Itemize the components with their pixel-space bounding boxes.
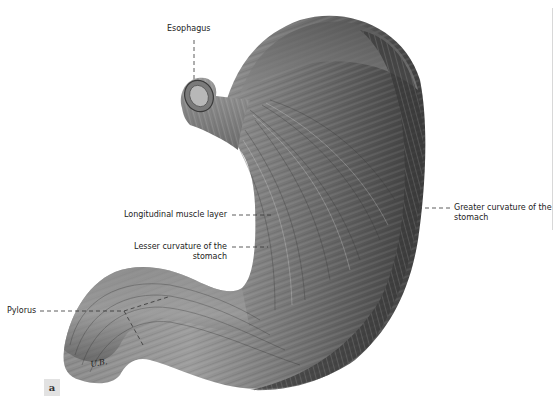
panel-label: a bbox=[44, 379, 60, 396]
page-edge-rule bbox=[552, 8, 553, 230]
label-lesser-curvature: Lesser curvature of the stomach bbox=[134, 242, 227, 262]
label-esophagus: Esophagus bbox=[167, 24, 210, 34]
label-greater-curvature: Greater curvature of the stomach bbox=[454, 203, 552, 223]
label-longitudinal-muscle-layer: Longitudinal muscle layer bbox=[124, 210, 227, 220]
label-pylorus: Pylorus bbox=[7, 306, 36, 316]
anatomy-figure: U.B. Esophagus Longitudinal muscle layer… bbox=[0, 0, 555, 410]
